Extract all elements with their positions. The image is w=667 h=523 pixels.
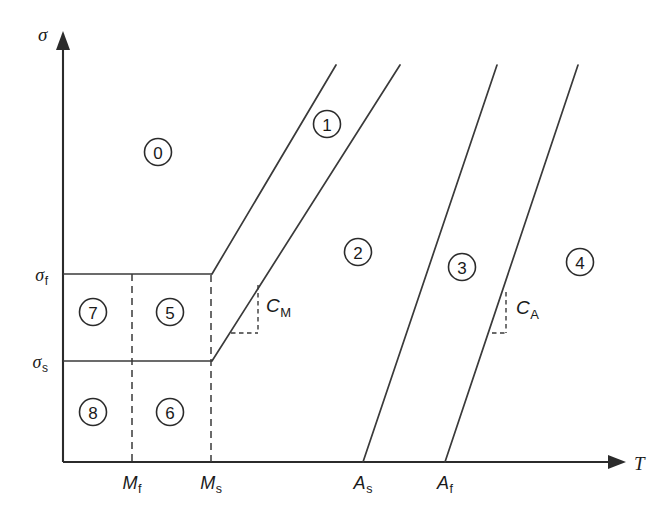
ms-tick: Ms (200, 473, 222, 496)
mf-finish-boundary (212, 65, 400, 361)
sigma-axis-label: σ (38, 24, 48, 45)
cm-base: C (266, 295, 280, 316)
region-marker-4: 4 (567, 249, 594, 276)
region-0-label: 0 (153, 144, 162, 163)
region-marker-6: 6 (157, 399, 184, 426)
mf-base: M (123, 473, 138, 493)
as-tick: As (353, 473, 373, 496)
region-2-label: 2 (353, 244, 362, 263)
region-5-label: 5 (165, 304, 174, 323)
ms-start-boundary (212, 65, 336, 274)
svg-text:CA: CA (516, 297, 539, 322)
sigma-axis-arrowhead (56, 31, 70, 50)
ca-base: C (516, 297, 530, 318)
af-base: A (436, 473, 449, 493)
temperature-axis-arrowhead (608, 455, 626, 469)
sigma-s-tick: σs (33, 352, 48, 375)
region-marker-7: 7 (80, 299, 107, 326)
af-tick: Af (436, 473, 454, 496)
region-marker-5: 5 (157, 299, 184, 326)
region-marker-3: 3 (449, 254, 476, 281)
region-marker-2: 2 (345, 239, 372, 266)
svg-text:As: As (353, 473, 373, 496)
region-1-label: 1 (322, 116, 331, 135)
region-3-label: 3 (457, 259, 466, 278)
phase-diagram-canvas: 0 1 2 3 4 5 6 7 (0, 0, 667, 523)
mf-sub: f (138, 482, 142, 496)
region-marker-1: 1 (314, 111, 341, 138)
region-4-label: 4 (575, 254, 584, 273)
ms-sub: s (216, 482, 222, 496)
svg-text:Af: Af (436, 473, 454, 496)
mf-tick: Mf (123, 473, 143, 496)
as-start-boundary (363, 65, 497, 462)
svg-text:σs: σs (33, 352, 48, 375)
sigma-f-tick: σf (35, 265, 48, 288)
ca-slope-label-group: CA (516, 297, 539, 322)
region-6-label: 6 (165, 404, 174, 423)
af-sub: f (450, 482, 454, 496)
region-marker-8: 8 (80, 399, 107, 426)
svg-text:Ms: Ms (200, 473, 222, 496)
ca-sub: A (530, 307, 539, 322)
region-marker-0: 0 (145, 139, 172, 166)
region-7-label: 7 (88, 304, 97, 323)
svg-text:Mf: Mf (123, 473, 143, 496)
temperature-axis-label: T (634, 453, 646, 474)
as-sub: s (366, 482, 372, 496)
svg-text:σf: σf (35, 265, 48, 288)
svg-text:CM: CM (266, 295, 291, 320)
sigma-s-sub: s (42, 361, 48, 375)
cm-sub: M (280, 305, 291, 320)
phase-diagram-figure: 0 1 2 3 4 5 6 7 (0, 0, 667, 523)
cm-slope-label-group: CM (266, 295, 291, 320)
sigma-f-sub: f (45, 274, 49, 288)
as-base: A (353, 473, 366, 493)
region-8-label: 8 (88, 404, 97, 423)
ms-base: M (200, 473, 215, 493)
